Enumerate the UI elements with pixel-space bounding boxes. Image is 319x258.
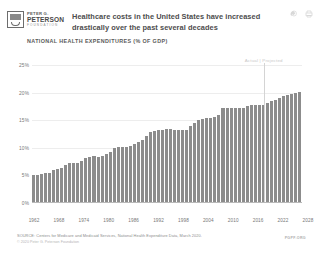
y-axis-tick: 0% [22, 201, 29, 206]
brand-logo[interactable]: PETER G. PETERSON FOUNDATION [7, 11, 64, 28]
plot-area: Actual | Projected [32, 65, 302, 203]
y-axis-tick: 25% [19, 63, 29, 68]
x-axis-tick: 1986 [128, 218, 139, 223]
chart-title: NATIONAL HEALTH EXPENDITURES (% OF GDP) [27, 38, 168, 44]
x-axis-tick: 1974 [78, 218, 89, 223]
header: PETER G. PETERSON FOUNDATION Healthcare … [0, 0, 319, 34]
logo-line-3: FOUNDATION [27, 24, 64, 27]
actual-projected-divider [264, 63, 265, 203]
x-axis-tick: 2016 [253, 218, 264, 223]
x-axis-tick: 1968 [54, 218, 65, 223]
logo-line-2: PETERSON [27, 17, 64, 24]
bar [298, 92, 302, 203]
peterson-foundation-logo-icon [7, 11, 24, 28]
headline: Healthcare costs in the United States ha… [72, 11, 272, 34]
bar-series [32, 65, 302, 203]
y-axis: 0%5%10%15%20%25% [10, 65, 32, 203]
y-axis-tick: 20% [19, 90, 29, 95]
y-axis-tick: 15% [19, 118, 29, 123]
pgpf-mark: PGPF.ORG [285, 236, 306, 240]
x-axis-tick: 1980 [103, 218, 114, 223]
x-axis-tick: 1962 [29, 218, 40, 223]
footer: SOURCE: Centers for Medicare and Medicai… [17, 233, 307, 244]
x-axis-tick: 1992 [153, 218, 164, 223]
axis-baseline [32, 202, 302, 203]
copyright-note: © 2020 Peter G. Peterson Foundation [17, 240, 307, 244]
x-axis-tick: 2028 [303, 218, 314, 223]
x-axis-tick: 1998 [178, 218, 189, 223]
source-note: SOURCE: Centers for Medicare and Medicai… [17, 233, 307, 239]
header-actions [290, 10, 313, 18]
print-icon[interactable] [305, 10, 313, 18]
actual-projected-label: Actual | Projected [245, 58, 283, 63]
y-axis-tick: 10% [19, 145, 29, 150]
x-axis-tick: 2010 [228, 218, 239, 223]
x-axis-tick: 2022 [278, 218, 289, 223]
x-axis-tick: 2004 [203, 218, 214, 223]
infographic-page: PETER G. PETERSON FOUNDATION Healthcare … [0, 0, 319, 258]
share-icon[interactable] [290, 10, 298, 18]
brand-wordmark: PETER G. PETERSON FOUNDATION [27, 11, 64, 27]
chart-area: 0%5%10%15%20%25% Actual | Projected [10, 57, 310, 217]
y-axis-tick: 5% [22, 173, 29, 178]
x-axis: 1962196819741980198619921998200420102016… [32, 218, 310, 230]
